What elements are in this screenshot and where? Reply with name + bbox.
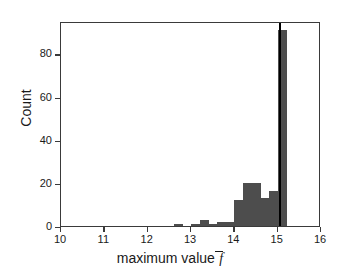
x-axis-label: maximum value f xyxy=(0,250,341,267)
y-tick-mark xyxy=(55,184,60,185)
y-tick-label: 0 xyxy=(22,220,52,232)
x-tick-label: 12 xyxy=(127,233,167,245)
histogram-figure: 10111213141516 020406080 maximum value f… xyxy=(0,0,341,279)
x-tick-mark xyxy=(320,227,321,232)
x-tick-mark xyxy=(103,227,104,232)
x-axis-symbol-letter: f xyxy=(219,251,223,266)
x-axis-label-symbol: f xyxy=(215,251,224,266)
x-tick-label: 13 xyxy=(170,233,210,245)
x-tick-mark xyxy=(233,227,234,232)
plot-area xyxy=(60,22,320,227)
x-tick-label: 10 xyxy=(40,233,80,245)
overbar-icon xyxy=(215,251,223,252)
histogram-bars xyxy=(61,23,319,226)
x-axis-label-text: maximum value xyxy=(117,250,215,266)
x-tick-label: 16 xyxy=(300,233,340,245)
histogram-bar xyxy=(174,224,183,226)
y-tick-mark xyxy=(55,141,60,142)
x-tick-label: 14 xyxy=(213,233,253,245)
x-tick-label: 15 xyxy=(257,233,297,245)
threshold-vertical-line xyxy=(279,22,281,226)
y-axis-label: Count xyxy=(18,58,34,158)
x-tick-mark xyxy=(277,227,278,232)
y-tick-label: 20 xyxy=(22,177,52,189)
y-tick-mark xyxy=(55,54,60,55)
y-tick-mark xyxy=(55,227,60,228)
x-tick-mark xyxy=(190,227,191,232)
x-tick-mark xyxy=(147,227,148,232)
x-tick-mark xyxy=(60,227,61,232)
x-tick-label: 11 xyxy=(83,233,123,245)
y-tick-mark xyxy=(55,98,60,99)
